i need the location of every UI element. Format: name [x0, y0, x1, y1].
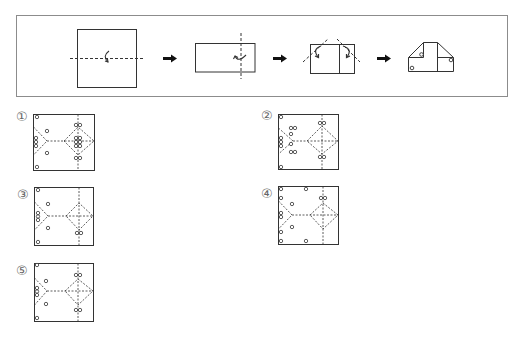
crease-diamond	[65, 279, 93, 305]
punched-hole	[290, 225, 293, 228]
punched-hole	[449, 58, 453, 62]
punched-hole	[46, 226, 49, 229]
punched-hole	[35, 290, 38, 293]
folding-steps-diagram	[0, 0, 518, 100]
option-label: ①	[16, 110, 28, 123]
curved-fold-arrow-icon	[315, 46, 321, 58]
unfolded-paper-diagram	[278, 114, 340, 171]
punched-hole	[279, 144, 282, 147]
right-arrow-icon	[377, 55, 391, 63]
punched-hole	[45, 151, 48, 154]
step-3-rectangle	[303, 39, 360, 74]
punched-hole	[78, 136, 81, 139]
punched-hole	[74, 156, 77, 159]
question-page: ① ② ③ ④ ⑤	[0, 0, 518, 337]
punched-hole	[74, 144, 77, 147]
punched-hole	[78, 156, 81, 159]
punched-hole	[35, 286, 38, 289]
punched-hole	[304, 239, 307, 242]
punched-hole	[35, 115, 38, 118]
punched-hole	[304, 187, 307, 190]
punched-hole	[74, 308, 77, 311]
punched-hole	[293, 150, 296, 153]
punched-hole	[44, 279, 47, 282]
punched-hole	[323, 196, 326, 199]
punched-hole	[74, 123, 77, 126]
crease-diamond	[66, 203, 93, 230]
punched-hole	[74, 140, 77, 143]
unfolded-paper-diagram	[34, 187, 95, 247]
punched-hole	[279, 136, 282, 139]
punched-hole	[36, 240, 39, 243]
option-label: ⑤	[16, 264, 28, 277]
punched-hole	[279, 196, 282, 199]
punched-hole	[35, 316, 38, 319]
punched-hole	[35, 263, 38, 266]
punched-hole	[45, 129, 48, 132]
punched-hole	[35, 293, 38, 296]
punched-hole	[36, 215, 39, 218]
curved-fold-arrow-icon	[343, 46, 350, 58]
punched-hole	[279, 140, 282, 143]
punched-hole	[78, 140, 81, 143]
curved-fold-arrow-icon	[234, 55, 247, 59]
curved-fold-arrow-icon	[105, 51, 109, 62]
crease-diamond	[307, 126, 338, 154]
punched-hole	[44, 302, 47, 305]
punched-hole	[410, 66, 414, 70]
punched-hole	[34, 136, 37, 139]
right-arrow-icon	[273, 55, 287, 63]
option-label: ③	[17, 188, 29, 201]
punched-hole	[322, 155, 325, 158]
punched-hole	[74, 136, 77, 139]
punched-hole	[322, 121, 325, 124]
option-label: ④	[261, 187, 273, 200]
paper-outline	[35, 264, 94, 322]
punched-hole	[319, 196, 322, 199]
punched-hole	[36, 211, 39, 214]
right-arrow-icon	[163, 55, 177, 63]
punched-hole	[279, 215, 282, 218]
step-4-folded-shape	[409, 43, 454, 72]
paper-outline	[279, 187, 339, 245]
punched-hole	[279, 211, 282, 214]
paper-outline	[34, 115, 95, 171]
punched-hole	[279, 115, 282, 118]
half-rectangle	[196, 44, 256, 73]
punched-hole	[36, 218, 39, 221]
paper-outline	[35, 188, 94, 246]
punched-hole	[290, 202, 293, 205]
unfolded-paper-diagram	[33, 114, 96, 172]
punched-hole	[289, 150, 292, 153]
punched-hole	[78, 273, 81, 276]
punched-hole	[289, 132, 292, 135]
punched-hole	[318, 155, 321, 158]
punched-hole	[289, 126, 292, 129]
punched-hole	[420, 53, 424, 57]
punched-hole	[34, 140, 37, 143]
punched-hole	[78, 123, 81, 126]
punched-hole	[279, 230, 282, 233]
punched-hole	[74, 273, 77, 276]
punched-hole	[34, 144, 37, 147]
punched-hole	[279, 165, 282, 168]
punched-hole	[78, 144, 81, 147]
punched-hole	[35, 165, 38, 168]
crease-diamond	[310, 203, 338, 229]
punched-hole	[36, 188, 39, 191]
punched-hole	[79, 231, 82, 234]
punched-hole	[289, 142, 292, 145]
punched-hole	[78, 308, 81, 311]
punched-hole	[293, 126, 296, 129]
step-1-square	[70, 30, 143, 88]
punched-hole	[46, 202, 49, 205]
punched-hole	[279, 239, 282, 242]
option-label: ②	[261, 109, 273, 122]
punched-hole	[318, 121, 321, 124]
unfolded-paper-diagram	[34, 263, 95, 323]
unfolded-paper-diagram	[278, 186, 340, 246]
step-2-rectangle	[196, 33, 256, 79]
punched-hole	[279, 187, 282, 190]
punched-hole	[75, 231, 78, 234]
